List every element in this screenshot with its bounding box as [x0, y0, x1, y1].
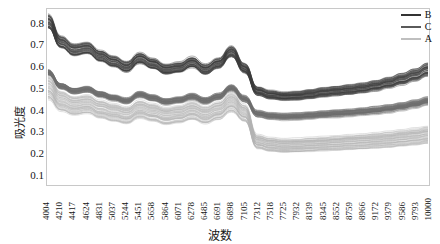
x-tick-label: 5451	[134, 202, 145, 220]
x-tick-label: 5658	[147, 202, 158, 220]
x-tick-label: 4210	[55, 202, 66, 220]
x-tick-label: 4831	[95, 202, 106, 220]
legend: BCA	[401, 10, 432, 44]
x-tick-label: 8552	[332, 202, 343, 220]
y-tick-label: 0.1	[20, 170, 44, 181]
y-tick-label: 0.7	[20, 39, 44, 50]
legend-item-a[interactable]: A	[401, 34, 432, 44]
y-tick-label: 0.2	[20, 148, 44, 159]
legend-label: C	[425, 22, 432, 32]
series-b	[48, 14, 428, 101]
x-tick-label: 8345	[319, 202, 330, 220]
y-tick-label: 0.8	[20, 18, 44, 29]
legend-item-c[interactable]: C	[401, 22, 432, 32]
legend-line-swatch	[401, 38, 421, 40]
x-tick-label: 5244	[121, 202, 132, 220]
x-tick-label: 8139	[305, 202, 316, 220]
x-tick-label: 5037	[108, 202, 119, 220]
x-tick-label: 9793	[411, 202, 422, 220]
y-tick-label: 0.5	[20, 83, 44, 94]
y-axis-tick-labels: 0.80.70.60.50.40.30.20.1	[0, 8, 44, 186]
x-tick-label: 6278	[187, 202, 198, 220]
x-tick-label: 7105	[240, 202, 251, 220]
y-tick-label: 0.3	[20, 126, 44, 137]
legend-label: B	[425, 10, 432, 20]
chart-root: 吸光度 0.80.70.60.50.40.30.20.1 BCA 4004421…	[0, 0, 440, 244]
legend-item-b[interactable]: B	[401, 10, 432, 20]
x-tick-label: 9379	[384, 202, 395, 220]
x-tick-label: 4624	[82, 202, 93, 220]
x-tick-label: 7725	[279, 202, 290, 220]
y-tick-label: 0.4	[20, 105, 44, 116]
y-tick-label: 0.6	[20, 61, 44, 72]
plot-area	[46, 8, 430, 186]
x-tick-label: 9172	[371, 202, 382, 220]
x-tick-label: 5864	[161, 202, 172, 220]
x-axis-tick-labels: 4004421044174624483150375244545156585864…	[46, 188, 430, 220]
x-tick-label: 4417	[68, 202, 79, 220]
x-tick-label: 6071	[174, 202, 185, 220]
x-tick-label: 8759	[345, 202, 356, 220]
x-tick-label: 4004	[42, 202, 53, 220]
x-tick-label: 9586	[398, 202, 409, 220]
legend-line-swatch	[401, 14, 421, 16]
x-tick-label: 6485	[200, 202, 211, 220]
x-tick-label: 7518	[266, 202, 277, 220]
spectra-curves	[47, 9, 429, 185]
x-tick-label: 6691	[213, 202, 224, 220]
x-tick-label: 6898	[226, 202, 237, 220]
x-tick-label: 10000	[424, 198, 435, 221]
x-axis-title: 波数	[0, 226, 440, 243]
legend-label: A	[425, 34, 432, 44]
x-tick-label: 8966	[358, 202, 369, 220]
legend-line-swatch	[401, 26, 421, 28]
x-tick-label: 7312	[253, 202, 264, 220]
x-tick-label: 7932	[292, 202, 303, 220]
